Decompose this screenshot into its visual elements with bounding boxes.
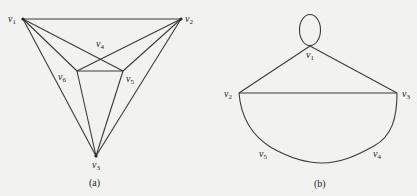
label-a-v2: v2 — [185, 13, 193, 26]
edge-a-v6-v3 — [77, 71, 96, 156]
vertex-a-v2 — [179, 17, 182, 20]
figure-b: v1 v2 v3 v4 v5 (b) — [224, 15, 410, 191]
vertex-a-v1 — [21, 17, 24, 20]
edge-a-v1-v3 — [23, 19, 96, 156]
label-b-v5: v5 — [259, 148, 267, 161]
diagram-canvas: v1 v2 v3 v4 v5 v6 (a) v1 v2 v3 v4 v5 (b) — [0, 0, 417, 196]
vertex-a-v3 — [94, 154, 97, 157]
label-b-v3: v3 — [402, 88, 410, 101]
label-a-v1: v1 — [8, 13, 16, 26]
label-a-v5: v5 — [126, 73, 134, 86]
label-a-v3: v3 — [92, 159, 100, 172]
caption-b: (b) — [314, 178, 326, 190]
edge-a-v1-v5 — [23, 19, 123, 71]
graph-figure: v1 v2 v3 v4 v5 v6 (a) v1 v2 v3 v4 v5 (b) — [0, 0, 417, 196]
label-b-v1: v1 — [306, 49, 314, 62]
figure-a: v1 v2 v3 v4 v5 v6 (a) — [8, 13, 193, 189]
label-a-v6: v6 — [58, 71, 66, 84]
edge-b-v1-v3 — [310, 46, 397, 93]
label-a-v4: v4 — [96, 38, 104, 51]
edge-a-v1-v6 — [23, 19, 77, 71]
caption-a: (a) — [89, 177, 100, 189]
edge-a-v5-v3 — [96, 71, 123, 156]
edge-a-v2-v3 — [96, 19, 181, 156]
label-b-v4: v4 — [373, 148, 381, 161]
edge-b-loop-v1 — [300, 15, 321, 46]
edge-b-v1-v2 — [239, 46, 310, 93]
edge-a-v2-v5 — [123, 19, 181, 71]
label-b-v2: v2 — [224, 88, 232, 101]
